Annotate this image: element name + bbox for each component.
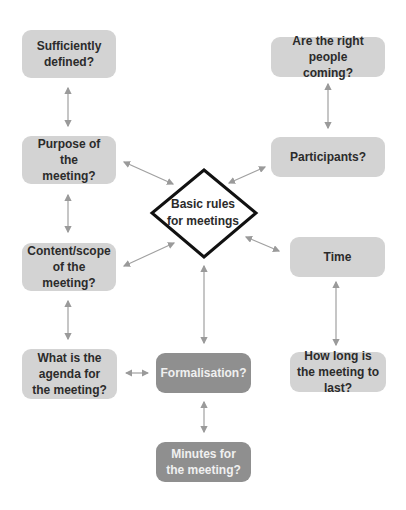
- arrow-center-purpose: [124, 162, 173, 184]
- arrow-center-content: [124, 243, 174, 266]
- node-content-scope: Content/scope of the meeting?: [22, 243, 116, 291]
- node-participants: Participants?: [271, 137, 385, 177]
- node-right-people: Are the right people coming?: [271, 37, 385, 77]
- center-label: Basic rules for meetings: [153, 196, 253, 230]
- node-agenda: What is the agenda for the meeting?: [22, 349, 117, 399]
- node-formalisation: Formalisation?: [156, 353, 251, 393]
- node-purpose: Purpose of the meeting?: [22, 136, 116, 184]
- arrow-center-participants: [229, 167, 265, 183]
- node-time: Time: [290, 237, 385, 277]
- node-minutes: Minutes for the meeting?: [156, 442, 251, 482]
- arrow-center-time: [246, 237, 279, 251]
- node-how-long: How long is the meeting to last?: [290, 352, 386, 392]
- node-sufficiently-defined: Sufficiently defined?: [22, 30, 116, 78]
